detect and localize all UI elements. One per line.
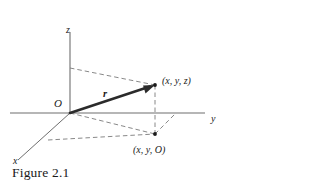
point-xyz-dot (153, 83, 157, 87)
point-xy0-label: (x, y, O) (133, 144, 166, 156)
z-axis-label: z (65, 24, 70, 35)
y-axis-label: y (210, 113, 216, 124)
coordinate-system-diagram: z y x O r (x, y, z) (x, y, O) (0, 0, 313, 188)
dash-origin-to-base-point (70, 113, 155, 134)
origin-label: O (54, 97, 62, 109)
point-xyz-label: (x, y, z) (162, 75, 192, 87)
dash-z-to-point (70, 68, 155, 85)
dash-base-to-y-axis (155, 113, 176, 134)
figure-page: z y x O r (x, y, z) (x, y, O) Figure 2.1 (0, 0, 313, 188)
point-xy0-dot (153, 132, 157, 136)
figure-caption: Figure 2.1 (12, 165, 70, 181)
vector-shaft (70, 87, 150, 114)
x-axis-line (18, 113, 70, 160)
vector-arrowhead (143, 85, 155, 94)
vector-label-r: r (103, 88, 108, 99)
axes-group (10, 32, 205, 160)
position-vector-r (70, 85, 155, 113)
dashed-construction-lines (48, 68, 176, 140)
dash-x-projection (48, 134, 155, 140)
